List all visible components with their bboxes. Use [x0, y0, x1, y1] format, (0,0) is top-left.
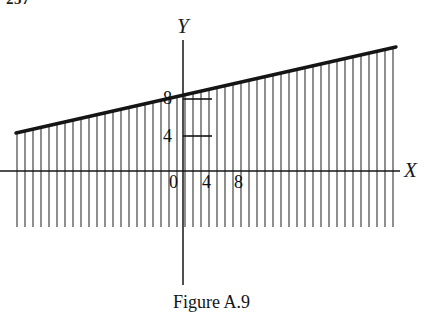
- hatched-region: [17, 0, 393, 323]
- x-axis-label: X: [404, 158, 417, 183]
- x-tick-label-8: 8: [234, 172, 243, 193]
- x-tick-label-0: 0: [169, 172, 178, 193]
- boundary-line: [16, 47, 396, 133]
- figure-caption: Figure A.9: [0, 292, 423, 313]
- figure-drawing: [0, 0, 423, 323]
- figure-page: 257 Y X 8 4 0 4 8 Figure A.9: [0, 0, 423, 323]
- y-tick-label-8: 8: [163, 88, 172, 109]
- y-axis-label: Y: [177, 14, 189, 39]
- page-number: 257: [6, 0, 30, 8]
- x-tick-label-4: 4: [202, 172, 211, 193]
- y-tick-label-4: 4: [163, 126, 172, 147]
